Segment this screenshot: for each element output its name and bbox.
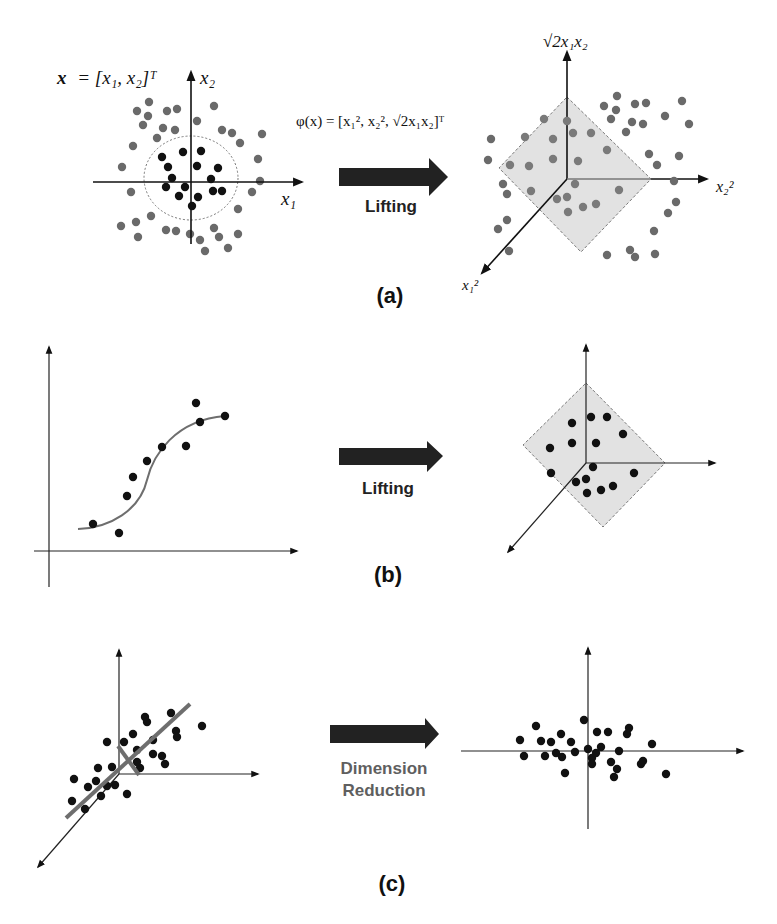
reduction-arrow-c: Dimension Reduction — [330, 718, 439, 800]
high-dim-point — [103, 738, 111, 746]
lifted-outer-point — [628, 118, 636, 126]
lifted-point-on-plane — [549, 155, 557, 163]
regression-point — [221, 412, 229, 420]
panel-label-a: (a) — [377, 283, 404, 308]
lifted-outer-point — [622, 128, 630, 136]
panel-a: x = [x₁, x₂]ᵀ x₂ x₁ φ(x) = [x₁², x₂², √2… — [56, 32, 735, 308]
high-dim-point — [167, 709, 175, 717]
lifted-outer-point — [653, 161, 661, 169]
lifted-outer-point — [664, 209, 672, 217]
class-inner-point — [181, 183, 189, 191]
reduced-point — [558, 753, 566, 761]
lifted-point-on-plane — [587, 129, 595, 137]
panel-label-c: (c) — [379, 871, 406, 896]
lifted-point-on-plane — [563, 117, 571, 125]
lifted-regression-point — [630, 469, 638, 477]
panel-a-inner-points — [158, 147, 226, 210]
class-inner-point — [179, 148, 187, 156]
lifted-outer-point — [494, 225, 502, 233]
class-inner-point — [188, 202, 196, 210]
lifted-point-on-plane — [563, 193, 571, 201]
regression-point — [123, 492, 131, 500]
high-dim-point — [161, 760, 169, 768]
reduced-point — [580, 716, 588, 724]
lifted-outer-point — [612, 106, 620, 114]
lifted-outer-point — [650, 227, 658, 235]
x1-axis-label: x₁ — [280, 188, 296, 209]
regression-point — [158, 443, 166, 451]
lifting-label-a: Lifting — [365, 197, 417, 216]
class-inner-point — [209, 187, 217, 195]
lifted-point-on-plane — [564, 208, 572, 216]
lifted-point-on-plane — [579, 203, 587, 211]
panel-a-feature-space: √2x₁x₂ x₂² x₁² — [461, 32, 735, 293]
class-outer-point — [215, 233, 223, 241]
class-outer-point — [159, 124, 167, 132]
lifted-outer-point — [631, 100, 639, 108]
lifted-outer-point — [661, 112, 669, 120]
class-outer-point — [162, 226, 170, 234]
class-outer-point — [117, 222, 125, 230]
reduced-point — [588, 760, 596, 768]
reduced-point — [604, 728, 612, 736]
high-dim-point — [158, 752, 166, 760]
class-inner-point — [193, 162, 201, 170]
reduced-point — [567, 738, 575, 746]
reduced-point — [648, 740, 656, 748]
lifted-outer-point — [603, 251, 611, 259]
class-outer-point — [186, 230, 194, 238]
lifted-regression-point — [568, 419, 576, 427]
lifted-regression-point — [597, 486, 605, 494]
high-dim-point — [70, 775, 78, 783]
class-outer-point — [144, 112, 152, 120]
high-dim-point — [108, 763, 116, 771]
class-outer-point — [210, 102, 218, 110]
x2-axis-label: x₂ — [199, 67, 215, 88]
regression-point — [143, 457, 151, 465]
class-outer-point — [234, 230, 242, 238]
reduced-point — [532, 722, 540, 730]
panel-c: Dimension Reduction (c) — [38, 648, 743, 896]
lifted-point-on-plane — [592, 200, 600, 208]
class-inner-point — [164, 163, 172, 171]
class-outer-point — [224, 244, 232, 252]
lifted-regression-point — [603, 413, 611, 421]
dimension-label: Dimension — [341, 759, 428, 778]
class-outer-point — [163, 107, 171, 115]
lifted-outer-point — [487, 135, 495, 143]
lifted-point-on-plane — [553, 195, 561, 203]
class-outer-point — [147, 212, 155, 220]
panel-b: Lifting (b) — [34, 345, 715, 587]
lifted-outer-point — [503, 216, 511, 224]
lifted-point-on-plane — [549, 135, 557, 143]
class-outer-point — [127, 188, 135, 196]
class-outer-point — [129, 142, 137, 150]
lifted-outer-point — [600, 102, 608, 110]
reduced-point — [639, 757, 647, 765]
class-inner-point — [162, 183, 170, 191]
reduction-label: Reduction — [342, 781, 425, 800]
class-inner-point — [194, 193, 202, 201]
lifted-outer-point — [645, 150, 653, 158]
right-arrow-icon — [330, 718, 439, 749]
class-outer-point — [254, 155, 262, 163]
lifted-point-on-plane — [603, 146, 611, 154]
panel-c-3d-space — [38, 650, 258, 867]
lifted-outer-point — [484, 156, 492, 164]
regression-point — [115, 529, 123, 537]
class-inner-point — [197, 147, 205, 155]
lifted-regression-point — [592, 439, 600, 447]
lifted-regression-point — [609, 482, 617, 490]
lifted-outer-point — [675, 152, 683, 160]
class-outer-point — [133, 107, 141, 115]
class-outer-point — [172, 227, 180, 235]
b-depth-axis — [508, 463, 586, 552]
class-outer-point — [118, 163, 126, 171]
reduced-point — [625, 724, 633, 732]
panel-b-feature-space — [508, 345, 715, 552]
class-outer-point — [234, 205, 242, 213]
lifted-point-on-plane — [521, 133, 529, 141]
high-dim-point — [84, 783, 92, 791]
class-outer-point — [132, 218, 140, 226]
class-outer-point — [196, 236, 204, 244]
